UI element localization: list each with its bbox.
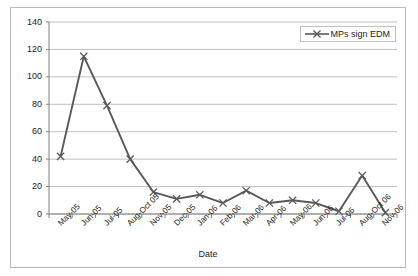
chart-frame: 020406080100120140 May-05Jun-05Jul-05Aug… <box>10 7 406 268</box>
line-chart-svg <box>11 8 407 269</box>
y-axis-tick-label: 20 <box>16 182 42 191</box>
legend-line-marker-icon <box>304 28 330 40</box>
gridlines <box>49 22 397 214</box>
y-axis-tick-label: 0 <box>16 210 42 219</box>
y-axis-tick-label: 80 <box>16 100 42 109</box>
y-axis-tick-label: 60 <box>16 127 42 136</box>
chart-legend: MPs sign EDM <box>300 26 396 42</box>
y-axis-tick-label: 100 <box>16 72 42 81</box>
y-axis-tick-label: 120 <box>16 45 42 54</box>
plot-area <box>11 8 405 267</box>
y-axis-tick-label: 140 <box>16 18 42 27</box>
x-axis-title: Date <box>11 250 405 259</box>
y-axis-tick-label: 40 <box>16 155 42 164</box>
legend-label: MPs sign EDM <box>330 30 390 39</box>
